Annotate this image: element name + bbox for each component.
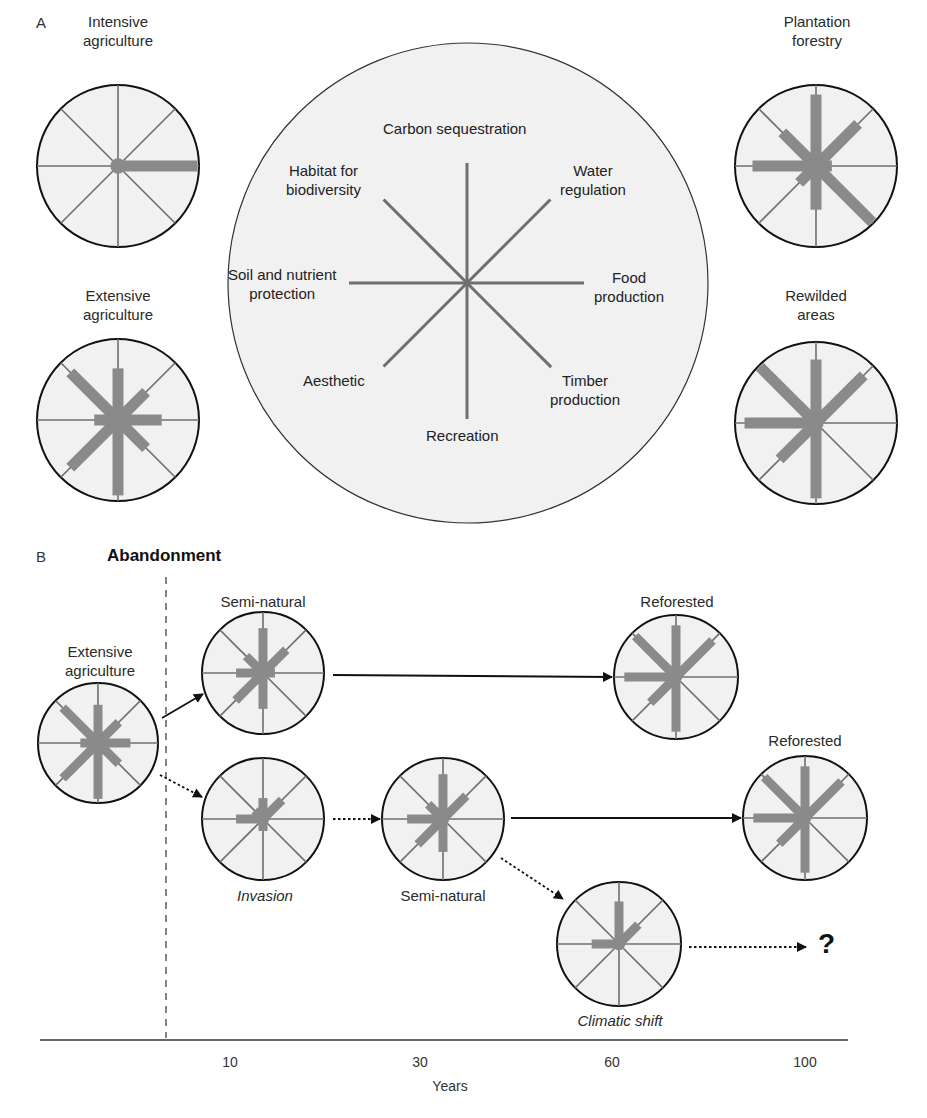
axis-label-water: Water regulation xyxy=(560,161,626,199)
axis-tick-60: 60 xyxy=(604,1054,620,1070)
radar-extensive-agriculture xyxy=(37,339,199,501)
axis-label-aesthetic: Aesthetic xyxy=(303,371,365,390)
label-line: agriculture xyxy=(83,31,153,50)
axis-label-years: Years xyxy=(432,1078,467,1094)
state-label-climatic-shift: Climatic shift xyxy=(577,1011,662,1030)
axis-tick-100: 100 xyxy=(793,1054,816,1070)
axis-label-carbon: Carbon sequestration xyxy=(383,119,526,138)
radar-b-reforested-1 xyxy=(614,615,738,739)
label-line: Timber xyxy=(550,371,620,390)
unknown-outcome: ? xyxy=(818,928,835,960)
state-label-invasion: Invasion xyxy=(237,886,293,905)
abandonment-title: Abandonment xyxy=(107,546,221,566)
state-label-reforested-2: Reforested xyxy=(768,731,841,750)
radar-b-seminatural-2 xyxy=(382,758,504,880)
label-line: regulation xyxy=(560,180,626,199)
radar-b-reforested-2 xyxy=(743,756,867,880)
state-label-extensive: Extensive agriculture xyxy=(65,642,135,680)
radar-plantation-forestry xyxy=(735,85,897,247)
label-line: Food xyxy=(594,268,664,287)
label-line: production xyxy=(550,390,620,409)
label-line: Habitat for xyxy=(286,161,361,180)
axis-label-habitat: Habitat for biodiversity xyxy=(286,161,361,199)
axis-label-timber: Timber production xyxy=(550,371,620,409)
panel-b-letter: B xyxy=(36,548,46,565)
label-line: production xyxy=(594,287,664,306)
label-line: biodiversity xyxy=(286,180,361,199)
state-label-seminatural-1: Semi-natural xyxy=(220,592,305,611)
label-line: agriculture xyxy=(83,305,153,324)
label-line: Rewilded xyxy=(785,286,847,305)
axis-label-food: Food production xyxy=(594,268,664,306)
radar-b-climatic-shift xyxy=(557,882,681,1006)
label-line: agriculture xyxy=(65,661,135,680)
radar-b-invasion xyxy=(202,758,324,880)
radar-b-seminatural-1 xyxy=(202,612,324,734)
label-line: Intensive xyxy=(83,12,153,31)
axis-tick-30: 30 xyxy=(412,1054,428,1070)
arrow-seminatural-to-climatic xyxy=(501,858,563,899)
system-label-intensive: Intensive agriculture xyxy=(83,12,153,50)
radar-b-extensive-agriculture xyxy=(38,683,158,803)
label-line: protection xyxy=(228,284,336,303)
label-line: Plantation xyxy=(784,12,851,31)
state-label-seminatural-2: Semi-natural xyxy=(400,886,485,905)
label-line: Extensive xyxy=(83,286,153,305)
system-label-extensive: Extensive agriculture xyxy=(83,286,153,324)
system-label-rewilded: Rewilded areas xyxy=(785,286,847,324)
arrow-seminatural-to-reforested xyxy=(333,675,612,677)
axis-label-recreation: Recreation xyxy=(426,426,499,445)
axis-label-soil: Soil and nutrient protection xyxy=(228,265,336,303)
label-line: forestry xyxy=(784,31,851,50)
radar-rewilded-areas xyxy=(735,342,897,504)
label-line: Extensive xyxy=(65,642,135,661)
label-line: areas xyxy=(785,305,847,324)
panel-a-letter: A xyxy=(36,14,46,31)
system-label-plantation: Plantation forestry xyxy=(784,12,851,50)
state-label-reforested-1: Reforested xyxy=(640,592,713,611)
axis-tick-10: 10 xyxy=(222,1054,238,1070)
label-line: Water xyxy=(560,161,626,180)
label-line: Soil and nutrient xyxy=(228,265,336,284)
radar-intensive-agriculture xyxy=(37,85,199,247)
arrow-extensive-to-seminatural xyxy=(162,694,203,718)
